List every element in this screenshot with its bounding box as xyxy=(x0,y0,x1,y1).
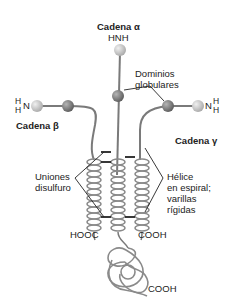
tangled-globular-domain xyxy=(108,248,148,296)
left-terminus-label: HOOC xyxy=(70,229,99,240)
helix-right xyxy=(135,159,149,231)
gamma-terminal-n: N xyxy=(205,100,212,111)
helix-label-line1: Hélice xyxy=(167,171,193,182)
helix-label-line3: varillas xyxy=(167,193,197,204)
globular-label-line2: globulares xyxy=(135,79,179,90)
beta-globular-domain xyxy=(62,100,74,112)
helix-label-line4: rígidas xyxy=(167,204,196,215)
alpha-globular-domain xyxy=(112,90,124,102)
alpha-terminal-sphere xyxy=(114,44,126,56)
alpha-tail xyxy=(118,232,128,248)
bottom-terminus-label: COOH xyxy=(148,283,177,294)
disulfide-label-line1: Uniones xyxy=(35,171,70,182)
beta-terminal-n: N xyxy=(23,100,30,111)
beta-chain-tail xyxy=(68,106,96,160)
disulfide-label-line2: disulfuro xyxy=(35,182,71,193)
beta-terminal-sphere xyxy=(31,100,43,112)
alpha-terminal-label: HNH xyxy=(108,32,129,43)
right-terminus-label: COOH xyxy=(138,229,167,240)
helix-left xyxy=(87,159,101,231)
gamma-chain-label: Cadena γ xyxy=(175,135,217,146)
gamma-terminal-sphere xyxy=(192,100,204,112)
fibrinogen-diagram xyxy=(0,0,233,304)
globular-label-line1: Dominios xyxy=(135,68,175,79)
gamma-terminal-h2: H xyxy=(213,105,219,116)
beta-terminal-h2: H xyxy=(15,105,21,116)
alpha-chain-stalk xyxy=(117,52,120,175)
helix-label-line2: en espiral; xyxy=(167,182,211,193)
alpha-chain-label: Cadena α xyxy=(97,21,140,32)
gamma-globular-domain xyxy=(162,100,174,112)
beta-chain-label: Cadena β xyxy=(16,120,59,131)
gamma-chain-tail xyxy=(140,106,168,160)
